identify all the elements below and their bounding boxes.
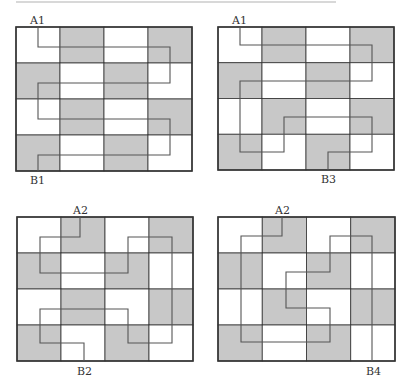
grid-cell bbox=[17, 217, 61, 253]
panel-4-end-label: B4 bbox=[366, 366, 381, 377]
grid-cell bbox=[351, 325, 395, 361]
grid-cell bbox=[61, 253, 105, 289]
grid-cell bbox=[105, 253, 149, 289]
grid-diagrams bbox=[0, 0, 407, 384]
grid-cell bbox=[61, 217, 105, 253]
grid-cell bbox=[61, 289, 105, 325]
grid-cell bbox=[218, 289, 262, 325]
grid-cell bbox=[262, 217, 306, 253]
grid-cell bbox=[218, 217, 262, 253]
grid-cell bbox=[104, 63, 148, 99]
grid-cell bbox=[149, 289, 193, 325]
grid-cell bbox=[60, 27, 104, 63]
grid-cell bbox=[104, 99, 148, 135]
grid-cell bbox=[149, 253, 193, 289]
grid-cell bbox=[351, 217, 395, 253]
grid-cell bbox=[149, 217, 193, 253]
grid-cell bbox=[218, 253, 262, 289]
panel-4-start-label: A2 bbox=[275, 205, 290, 216]
panel-4 bbox=[218, 217, 395, 361]
grid-cell bbox=[307, 217, 351, 253]
grid-cell bbox=[60, 135, 104, 171]
panel-2-end-label: B3 bbox=[321, 174, 336, 185]
grid-cell bbox=[105, 217, 149, 253]
grid-cell bbox=[104, 27, 148, 63]
grid-cell bbox=[307, 253, 351, 289]
grid-cell bbox=[351, 253, 395, 289]
grid-cell bbox=[262, 325, 306, 361]
grid-cell bbox=[105, 289, 149, 325]
panel-2-start-label: A1 bbox=[232, 15, 247, 26]
panel-1-end-label: B1 bbox=[30, 175, 45, 186]
panel-3 bbox=[17, 217, 193, 361]
grid-cell bbox=[307, 289, 351, 325]
grid-cell bbox=[17, 289, 61, 325]
grid-cell bbox=[262, 289, 306, 325]
grid-cell bbox=[218, 325, 262, 361]
panel-3-end-label: B2 bbox=[77, 366, 92, 377]
panel-1-start-label: A1 bbox=[30, 15, 45, 26]
grid-cell bbox=[307, 325, 351, 361]
grid-cell bbox=[17, 253, 61, 289]
grid-cell bbox=[306, 99, 350, 135]
panel-3-start-label: A2 bbox=[73, 205, 88, 216]
grid-cell bbox=[60, 99, 104, 135]
grid-cell bbox=[351, 289, 395, 325]
grid-cell bbox=[104, 135, 148, 171]
grid-cell bbox=[262, 253, 306, 289]
grid-cell bbox=[60, 63, 104, 99]
panel-1 bbox=[16, 27, 192, 171]
panel-2 bbox=[218, 27, 394, 170]
